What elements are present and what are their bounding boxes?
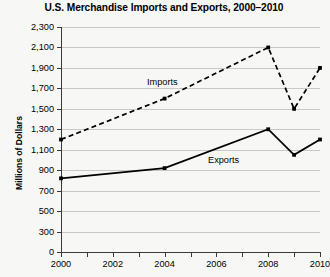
x-tick-label: 2008 bbox=[258, 259, 278, 269]
series-line-exports bbox=[61, 129, 320, 178]
y-tick-label: 2,300 bbox=[31, 22, 54, 32]
data-point-imports bbox=[59, 138, 63, 142]
x-tick-label: 2006 bbox=[206, 259, 226, 269]
series-lines bbox=[61, 27, 320, 253]
data-point-exports bbox=[292, 153, 296, 157]
y-tick-label: 1,500 bbox=[31, 104, 54, 114]
plot-area: 03005007009001,1001,3001,5001,7001,9002,… bbox=[61, 27, 320, 252]
series-label-exports: Exports bbox=[208, 155, 239, 165]
y-tick-label: 1,900 bbox=[31, 63, 54, 73]
data-point-imports bbox=[292, 107, 296, 111]
x-tick-mark bbox=[320, 252, 321, 257]
data-point-imports bbox=[163, 97, 167, 101]
data-point-imports bbox=[318, 66, 322, 70]
y-tick-label: 0 bbox=[49, 247, 54, 257]
y-tick-label: 1,300 bbox=[31, 124, 54, 134]
chart-title: U.S. Merchandise Imports and Exports, 20… bbox=[0, 2, 328, 13]
y-tick-label: 700 bbox=[39, 186, 54, 196]
y-tick-label: 900 bbox=[39, 165, 54, 175]
y-tick-label: 300 bbox=[39, 227, 54, 237]
y-tick-label: 1,700 bbox=[31, 83, 54, 93]
data-point-exports bbox=[59, 176, 63, 180]
y-tick-label: 500 bbox=[39, 206, 54, 216]
data-point-imports bbox=[266, 46, 270, 50]
data-point-exports bbox=[318, 138, 322, 142]
y-axis-title: Millions of Dollars bbox=[14, 88, 24, 218]
x-tick-label: 2002 bbox=[103, 259, 123, 269]
data-point-exports bbox=[163, 166, 167, 170]
x-tick-label: 2000 bbox=[51, 259, 71, 269]
x-tick-label: 2004 bbox=[154, 259, 174, 269]
series-line-imports bbox=[61, 47, 320, 139]
y-tick-label: 1,100 bbox=[31, 145, 54, 155]
data-point-exports bbox=[266, 127, 270, 131]
x-tick-label: 2010 bbox=[310, 259, 330, 269]
series-label-imports: Imports bbox=[147, 77, 178, 87]
y-tick-label: 2,100 bbox=[31, 42, 54, 52]
